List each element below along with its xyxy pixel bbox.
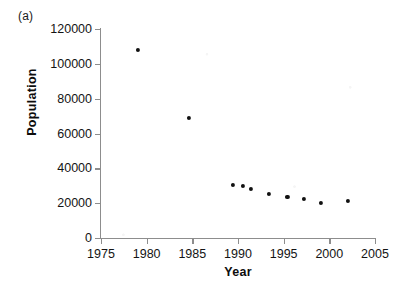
data-point: [267, 192, 271, 196]
y-tick-label: 40000: [0, 161, 92, 175]
x-tick-label: 2005: [361, 247, 389, 261]
y-axis-tick-labels: 020000400006000080000100000120000: [0, 0, 92, 301]
plot-area: [101, 29, 375, 238]
x-tick: [375, 238, 376, 244]
data-point: [346, 199, 350, 203]
data-point: [285, 195, 289, 199]
data-point: [302, 197, 306, 201]
x-tick: [147, 238, 148, 244]
data-point: [319, 201, 323, 205]
y-tick-label: 20000: [0, 196, 92, 210]
x-tick: [238, 238, 239, 244]
x-tick: [192, 238, 193, 244]
data-point: [230, 183, 234, 187]
x-tick-label: 2000: [315, 247, 343, 261]
data-point: [240, 184, 244, 188]
y-tick-label: 80000: [0, 92, 92, 106]
x-tick-label: 1980: [133, 247, 161, 261]
x-tick-label: 1975: [87, 247, 115, 261]
x-tick: [284, 238, 285, 244]
x-tick-label: 1985: [178, 247, 206, 261]
y-tick-label: 120000: [0, 22, 92, 36]
x-tick: [101, 238, 102, 244]
x-axis-title: Year: [101, 265, 375, 279]
population-scatter-figure: (a) 020000400006000080000100000120000 19…: [0, 0, 398, 301]
y-axis-title: Population: [25, 42, 39, 162]
data-point: [249, 187, 253, 191]
x-tick-label: 1995: [270, 247, 298, 261]
y-tick-label: 0: [0, 231, 92, 245]
data-point: [135, 48, 139, 52]
y-tick-label: 60000: [0, 127, 92, 141]
x-tick-label: 1990: [224, 247, 252, 261]
y-tick-label: 100000: [0, 57, 92, 71]
data-point: [187, 116, 191, 120]
x-tick: [329, 238, 330, 244]
